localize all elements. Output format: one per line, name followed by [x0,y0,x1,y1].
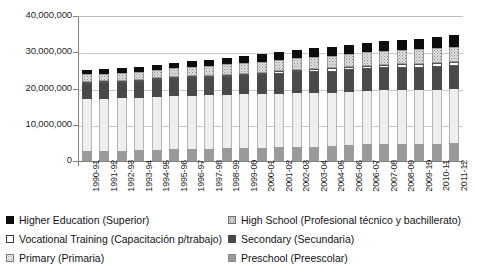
stacked-bar[interactable] [379,41,389,161]
bar-group[interactable] [201,16,219,161]
stacked-bar[interactable] [274,52,284,161]
stacked-bar[interactable] [362,43,372,161]
bar-group[interactable] [306,16,324,161]
bar-segment-secondary[interactable] [99,83,109,98]
bar-group[interactable] [446,16,464,161]
bar-segment-primary[interactable] [169,96,179,149]
bar-group[interactable] [148,16,166,161]
bar-segment-primary[interactable] [309,93,319,147]
bar-segment-secondary[interactable] [379,68,389,90]
stacked-bar[interactable] [414,39,424,161]
bar-group[interactable] [131,16,149,161]
bar-segment-primary[interactable] [222,95,232,148]
bar-segment-secondary[interactable] [169,79,179,96]
bar-segment-primary[interactable] [257,94,267,148]
bar-segment-primary[interactable] [432,90,442,144]
stacked-bar[interactable] [449,35,459,161]
legend-item-vocational[interactable]: Vocational Training (Capacitación p/trab… [6,231,222,247]
stacked-bar[interactable] [117,68,127,161]
bar-segment-highschool[interactable] [134,72,144,80]
bar-segment-secondary[interactable] [432,67,442,90]
bar-segment-primary[interactable] [362,91,372,144]
bar-segment-preschool[interactable] [414,144,424,161]
bar-segment-highschool[interactable] [414,49,424,64]
bar-group[interactable] [271,16,289,161]
bar-segment-secondary[interactable] [327,72,337,93]
bar-segment-higher[interactable] [274,52,284,60]
bar-segment-preschool[interactable] [449,143,459,161]
bar-segment-primary[interactable] [152,97,162,150]
bar-segment-preschool[interactable] [397,144,407,161]
bar-segment-higher[interactable] [292,50,302,58]
bar-group[interactable] [113,16,131,161]
bar-segment-primary[interactable] [292,93,302,147]
bar-group[interactable] [358,16,376,161]
stacked-bar[interactable] [239,56,249,161]
bar-segment-highschool[interactable] [432,48,442,63]
bar-segment-highschool[interactable] [344,54,354,67]
bar-group[interactable] [341,16,359,161]
stacked-bar[interactable] [82,70,92,161]
bar-segment-highschool[interactable] [187,67,197,76]
bar-segment-higher[interactable] [449,35,459,46]
bar-segment-higher[interactable] [239,56,249,63]
bar-segment-secondary[interactable] [414,68,424,90]
stacked-bar[interactable] [204,60,214,161]
bar-segment-secondary[interactable] [274,74,284,94]
bar-group[interactable] [183,16,201,161]
bar-segment-primary[interactable] [397,90,407,144]
bar-segment-secondary[interactable] [187,78,197,95]
bar-segment-preschool[interactable] [309,147,319,161]
bar-segment-preschool[interactable] [292,147,302,161]
bar-segment-primary[interactable] [82,99,92,151]
bar-segment-primary[interactable] [187,96,197,149]
stacked-bar[interactable] [257,54,267,161]
bar-segment-highschool[interactable] [292,58,302,70]
bar-group[interactable] [393,16,411,161]
stacked-bar[interactable] [152,65,162,161]
bar-segment-higher[interactable] [397,40,407,50]
bar-segment-secondary[interactable] [292,72,302,93]
bar-segment-higher[interactable] [432,37,442,48]
bar-group[interactable] [78,16,96,161]
bar-segment-highschool[interactable] [257,62,267,73]
bar-group[interactable] [218,16,236,161]
bar-group[interactable] [96,16,114,161]
bar-segment-primary[interactable] [99,99,109,151]
bar-segment-primary[interactable] [449,89,459,143]
legend-item-highschool[interactable]: High School (Profesional técnico y bachi… [228,212,461,228]
bar-segment-higher[interactable] [327,47,337,56]
bar-segment-secondary[interactable] [134,82,144,98]
bar-segment-primary[interactable] [379,90,389,143]
stacked-bar[interactable] [432,37,442,161]
stacked-bar[interactable] [309,48,319,161]
bar-segment-preschool[interactable] [432,144,442,161]
stacked-bar[interactable] [187,61,197,161]
bar-group[interactable] [288,16,306,161]
bar-group[interactable] [376,16,394,161]
bar-segment-primary[interactable] [134,98,144,150]
bar-segment-preschool[interactable] [379,144,389,162]
bar-segment-secondary[interactable] [239,76,249,95]
bar-segment-primary[interactable] [327,93,337,146]
bar-segment-highschool[interactable] [152,70,162,78]
bar-segment-preschool[interactable] [274,147,284,161]
bar-segment-primary[interactable] [117,98,127,150]
bar-segment-preschool[interactable] [362,144,372,161]
bar-segment-higher[interactable] [257,54,267,61]
bar-segment-secondary[interactable] [257,75,267,94]
stacked-bar[interactable] [397,40,407,161]
stacked-bar[interactable] [344,45,354,161]
bar-segment-higher[interactable] [344,45,354,54]
bar-segment-highschool[interactable] [397,50,407,64]
bar-segment-higher[interactable] [362,43,372,52]
bar-segment-higher[interactable] [414,39,424,49]
bar-segment-primary[interactable] [414,90,424,144]
stacked-bar[interactable] [292,50,302,161]
bar-group[interactable] [323,16,341,161]
bar-segment-secondary[interactable] [344,70,354,92]
bar-segment-highschool[interactable] [274,60,284,71]
bar-segment-highschool[interactable] [117,73,127,81]
bar-segment-secondary[interactable] [82,84,92,99]
bar-segment-primary[interactable] [344,92,354,145]
